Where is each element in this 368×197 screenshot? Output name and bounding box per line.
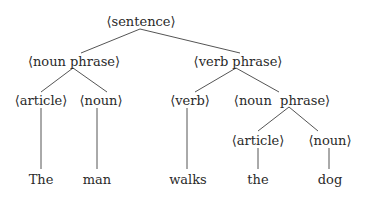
leaf-dog: dog <box>318 173 342 186</box>
node-noun-phrase: ⟨noun phrase⟩ <box>28 55 120 68</box>
node-verb-phrase: ⟨verb phrase⟩ <box>194 55 283 68</box>
edge-np1-noun1 <box>73 68 107 92</box>
edge-np2-noun2 <box>289 107 318 131</box>
leaf-the-2: the <box>247 173 268 186</box>
node-noun-2: ⟨noun⟩ <box>308 134 351 147</box>
leaf-walks: walks <box>169 173 207 186</box>
edge-sentence-vp <box>140 29 240 53</box>
node-article-2: ⟨article⟩ <box>232 134 285 147</box>
node-noun-phrase-2: ⟨noun phrase⟩ <box>234 94 330 107</box>
edge-vp-verb <box>195 68 236 92</box>
parse-tree-diagram: ⟨sentence⟩ ⟨noun phrase⟩ ⟨verb phrase⟩ ⟨… <box>0 0 368 197</box>
node-noun-1: ⟨noun⟩ <box>79 94 122 107</box>
edge-np1-art1 <box>41 68 73 92</box>
node-article-1: ⟨article⟩ <box>15 94 68 107</box>
node-verb: ⟨verb⟩ <box>170 94 210 107</box>
edge-sentence-np1 <box>81 29 140 53</box>
edge-vp-np2 <box>236 68 279 92</box>
edge-np2-art2 <box>258 107 289 131</box>
leaf-man: man <box>83 173 111 186</box>
node-sentence: ⟨sentence⟩ <box>106 15 175 28</box>
leaf-the-1: The <box>29 173 54 186</box>
